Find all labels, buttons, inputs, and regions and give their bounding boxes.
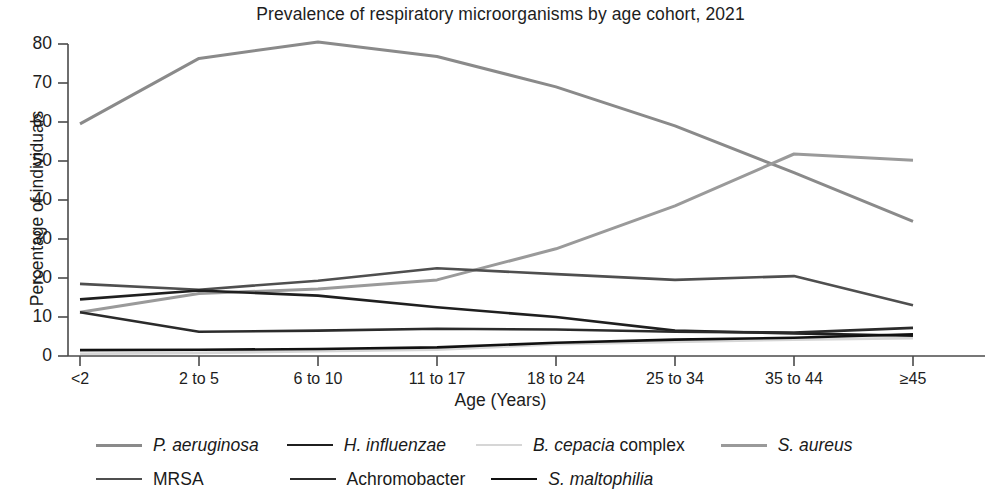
legend-item-achromobacter[interactable]: Achromobacter	[290, 469, 466, 490]
series-line-mrsa	[80, 268, 913, 305]
legend-item-s-maltophilia[interactable]: S. maltophilia	[491, 469, 653, 490]
legend-label: P. aeruginosa	[153, 435, 259, 456]
chart-figure: Prevalence of respiratory microorganisms…	[0, 0, 1001, 504]
legend-item-p-aeruginosa[interactable]: P. aeruginosa	[96, 435, 259, 456]
legend-item-h-influenzae[interactable]: H. influenzae	[287, 435, 446, 456]
legend-swatch-icon	[476, 444, 522, 446]
legend-label-italic: P. aeruginosa	[153, 435, 259, 455]
legend-label: H. influenzae	[344, 435, 446, 456]
legend-row-primary: P. aeruginosaH. influenzaeB. cepacia com…	[0, 428, 1001, 462]
axes	[58, 44, 985, 366]
legend-swatch-icon	[721, 444, 767, 447]
legend-row-secondary: MRSAAchromobacterS. maltophilia	[0, 462, 1001, 496]
legend-swatch-icon	[96, 444, 142, 447]
legend-label: B. cepacia complex	[533, 435, 685, 456]
legend-label-italic: B. cepacia	[533, 435, 615, 455]
legend-label: S. maltophilia	[548, 469, 653, 490]
series-line-achromobacter	[80, 312, 913, 332]
series-line-p-aeruginosa	[80, 42, 913, 221]
legend-label: S. aureus	[778, 435, 853, 456]
legend-swatch-icon	[290, 478, 336, 480]
legend-item-s-aureus[interactable]: S. aureus	[721, 435, 853, 456]
legend-label-italic: H. influenzae	[344, 435, 446, 455]
legend-swatch-icon	[287, 444, 333, 446]
series-lines	[80, 42, 913, 354]
legend-item-b-cepacia-complex[interactable]: B. cepacia complex	[476, 435, 685, 456]
plot-area	[0, 0, 1001, 420]
legend-label-roman: complex	[615, 435, 685, 455]
legend-swatch-icon	[96, 478, 142, 480]
legend-label-italic: S. maltophilia	[548, 469, 653, 489]
legend-label-roman: Achromobacter	[347, 469, 466, 489]
legend-label: MRSA	[153, 469, 204, 490]
legend-label-roman: MRSA	[153, 469, 204, 489]
legend-swatch-icon	[491, 478, 537, 480]
chart-legend: P. aeruginosaH. influenzaeB. cepacia com…	[0, 428, 1001, 496]
legend-item-mrsa[interactable]: MRSA	[96, 469, 204, 490]
legend-label: Achromobacter	[347, 469, 466, 490]
legend-label-italic: S. aureus	[778, 435, 853, 455]
